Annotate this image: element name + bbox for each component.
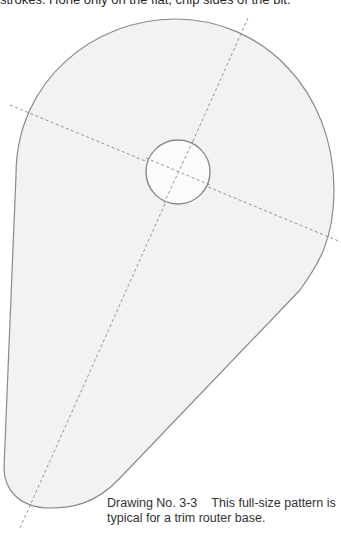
caption-label: Drawing No. 3-3 <box>107 496 197 510</box>
caption-line-1: Drawing No. 3-3This full-size pattern is <box>107 496 336 511</box>
caption-line-2: typical for a trim router base. <box>107 511 336 526</box>
caption-text-1: This full-size pattern is <box>211 496 335 510</box>
center-hole <box>146 140 210 204</box>
figure-caption: Drawing No. 3-3This full-size pattern is… <box>107 496 336 526</box>
router-base-pattern-drawing <box>0 0 341 539</box>
base-outline <box>4 19 334 508</box>
